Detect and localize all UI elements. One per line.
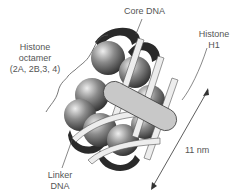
h1-leader (182, 48, 207, 100)
label-histone-octamer: Histone octamer (2A, 2B,3, 4) (4, 42, 66, 75)
linker-dna-leader (62, 140, 72, 168)
label-core-dna: Core DNA (124, 6, 165, 17)
core-dna-leader (136, 19, 142, 34)
label-linker-dna: Linker DNA (42, 170, 78, 192)
label-dimension: 11 nm (185, 145, 209, 156)
label-histone-h1: Histone H1 (196, 29, 232, 51)
